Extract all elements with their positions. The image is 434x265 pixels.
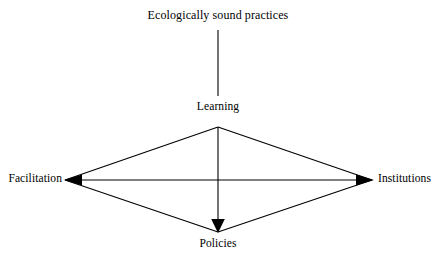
edge-learning-institutions	[218, 127, 372, 180]
node-label-learning: Learning	[197, 101, 239, 113]
edge-facilitation-policies	[65, 180, 218, 232]
arrowhead-east-icon	[356, 174, 374, 185]
node-label-institutions: Institutions	[378, 173, 431, 185]
arrowhead-west-icon	[64, 174, 82, 185]
node-label-ecologically-sound-practices: Ecologically sound practices	[148, 9, 289, 21]
node-label-policies: Policies	[199, 238, 236, 250]
diagram-graphic	[0, 0, 434, 265]
edge-learning-facilitation	[65, 127, 218, 180]
diagram-canvas: Ecologically sound practices Learning Fa…	[0, 0, 434, 265]
edge-institutions-policies	[218, 180, 372, 232]
node-label-facilitation: Facilitation	[8, 173, 62, 185]
